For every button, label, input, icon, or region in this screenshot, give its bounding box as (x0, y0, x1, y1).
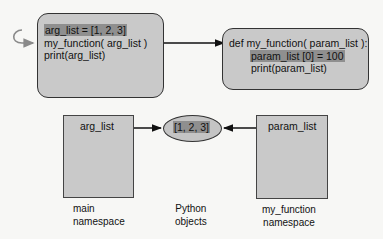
main-namespace-caption: main namespace (73, 203, 125, 228)
function-namespace-variable: param_list (268, 120, 316, 133)
main-namespace-variable: arg_list (80, 120, 114, 133)
caller-code: arg_list = [1, 2, 3] my_function( arg_li… (44, 24, 147, 62)
loop-arrow-icon (14, 30, 33, 43)
code-line-mutate: param_list [0] = 100 (250, 50, 345, 62)
function-code: def my_function( param_list ): param_lis… (229, 37, 367, 75)
python-objects-caption: Python objects (175, 203, 207, 228)
code-line-def: def my_function( param_list ): (229, 37, 367, 50)
code-line-print: print(arg_list) (44, 49, 147, 62)
code-line-call: my_function( arg_list ) (44, 37, 147, 50)
list-object-value: [1, 2, 3] (173, 121, 210, 134)
code-line-print-param: print(param_list) (229, 62, 367, 75)
function-namespace-caption: my_function namespace (262, 204, 316, 229)
code-line-assign: arg_list = [1, 2, 3] (44, 24, 127, 36)
